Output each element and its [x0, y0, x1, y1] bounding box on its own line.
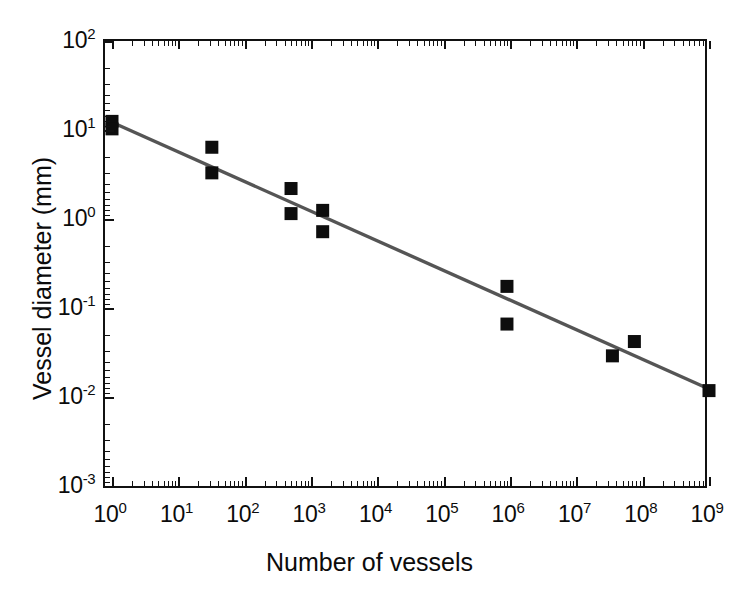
axis-tick [632, 481, 633, 486]
axis-tick [351, 41, 352, 46]
axis-tick [433, 481, 434, 486]
axis-tick [105, 184, 110, 185]
axis-tick [484, 481, 485, 486]
axis-tick [397, 481, 398, 486]
axis-tick [424, 481, 425, 486]
axis-tick [105, 173, 110, 174]
axis-tick [291, 41, 292, 46]
axis-tick [105, 383, 110, 384]
axis-tick [507, 481, 508, 486]
axis-tick [276, 41, 277, 46]
axis-tick [475, 481, 476, 486]
axis-tick [504, 41, 505, 46]
axis-tick [576, 477, 578, 486]
axis-tick [285, 41, 286, 46]
axis-tick [168, 481, 169, 486]
axis-tick [689, 481, 690, 486]
data-point-marker [316, 204, 329, 217]
axis-tick [175, 41, 176, 46]
axis-tick [105, 126, 110, 127]
axis-tick [500, 481, 501, 486]
axis-tick [504, 481, 505, 486]
axis-tick [542, 41, 543, 46]
axis-tick [699, 481, 700, 486]
axis-tick [105, 393, 110, 394]
axis-tick [437, 41, 438, 46]
axis-tick [105, 466, 110, 467]
axis-tick [464, 481, 465, 486]
axis-tick [363, 41, 364, 46]
axis-tick [105, 246, 110, 247]
axis-tick [105, 95, 110, 96]
x-tick-label: 107 [558, 500, 591, 526]
axis-tick [374, 41, 375, 46]
axis-tick [437, 481, 438, 486]
axis-tick [490, 41, 491, 46]
axis-tick [709, 477, 711, 486]
axis-tick [608, 481, 609, 486]
axis-tick [674, 41, 675, 46]
axis-tick [105, 210, 110, 211]
chart-figure: 100101102103104105106107108109 102101100… [0, 0, 739, 597]
axis-tick [172, 41, 173, 46]
y-axis-title-text: Vessel diameter (mm) [28, 157, 56, 400]
axis-tick [132, 41, 133, 46]
axis-tick [105, 281, 110, 282]
axis-tick [371, 41, 372, 46]
axis-tick [105, 397, 114, 399]
axis-tick [640, 41, 641, 46]
x-tick-label: 108 [624, 500, 657, 526]
data-point-marker [285, 182, 298, 195]
axis-tick [105, 199, 110, 200]
axis-tick [105, 335, 110, 336]
axis-tick [144, 41, 145, 46]
axis-tick [424, 41, 425, 46]
axis-tick [566, 41, 567, 46]
axis-tick [152, 481, 153, 486]
axis-tick [234, 41, 235, 46]
axis-tick [371, 481, 372, 486]
axis-tick [218, 481, 219, 486]
plot-area [103, 39, 707, 488]
axis-tick [296, 481, 297, 486]
axis-tick [377, 477, 379, 486]
axis-tick [632, 41, 633, 46]
axis-tick [105, 215, 110, 216]
axis-tick [311, 477, 313, 486]
axis-tick [105, 130, 114, 132]
axis-tick [198, 41, 199, 46]
x-tick-label: 105 [425, 500, 458, 526]
axis-tick [576, 41, 578, 49]
axis-tick [178, 477, 180, 486]
axis-tick [510, 41, 512, 49]
axis-tick [296, 41, 297, 46]
axis-tick [417, 41, 418, 46]
axis-tick [178, 41, 180, 49]
axis-tick [628, 481, 629, 486]
axis-tick [105, 294, 110, 295]
axis-tick [285, 481, 286, 486]
axis-tick [105, 459, 110, 460]
axis-tick [643, 477, 645, 486]
axis-tick [357, 41, 358, 46]
axis-tick [507, 41, 508, 46]
axis-tick [105, 273, 110, 274]
axis-tick [301, 481, 302, 486]
axis-tick [105, 304, 110, 305]
data-point-marker [316, 225, 329, 238]
data-point-marker [703, 384, 716, 397]
axis-tick [643, 41, 645, 49]
axis-tick [484, 41, 485, 46]
axis-tick [305, 481, 306, 486]
data-point-marker [285, 207, 298, 220]
axis-tick [495, 481, 496, 486]
x-tick-label: 102 [226, 500, 259, 526]
axis-tick [105, 288, 110, 289]
chart-canvas [105, 41, 709, 490]
axis-tick [608, 41, 609, 46]
axis-tick [409, 41, 410, 46]
data-point-marker [205, 141, 218, 154]
fit-line [112, 122, 709, 389]
data-point-marker [628, 335, 641, 348]
axis-tick [238, 481, 239, 486]
